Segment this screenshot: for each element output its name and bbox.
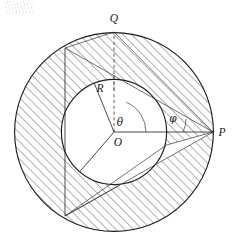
label-Q: Q bbox=[110, 12, 119, 24]
label-P: P bbox=[217, 126, 225, 138]
label-R: R bbox=[95, 82, 103, 94]
label-phi: φ bbox=[169, 112, 177, 124]
label-theta: θ bbox=[117, 116, 124, 128]
label-O: O bbox=[114, 136, 123, 148]
figure-canvas: Q P R O θ φ bbox=[0, 0, 236, 244]
geometry-figure: Q P R O θ φ bbox=[0, 0, 236, 244]
